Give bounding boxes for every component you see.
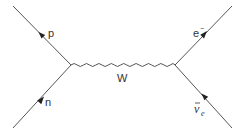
feynman-diagram: p n W e − ν e xyxy=(0,0,246,134)
w-boson-line xyxy=(71,64,175,67)
w-boson-label: W xyxy=(117,72,128,84)
proton-label: p xyxy=(48,27,54,39)
proton-line xyxy=(13,6,71,65)
svg-text:ν: ν xyxy=(194,102,200,116)
antineutrino-line xyxy=(175,65,232,128)
svg-text:e: e xyxy=(193,27,199,39)
svg-text:e: e xyxy=(201,109,205,118)
electron-line xyxy=(175,6,232,65)
antineutrino-label: ν e xyxy=(194,102,205,118)
neutron-line xyxy=(13,65,71,128)
svg-text:−: − xyxy=(200,25,204,32)
antineutrino-arrow-icon xyxy=(202,94,209,101)
neutron-label: n xyxy=(45,96,51,108)
